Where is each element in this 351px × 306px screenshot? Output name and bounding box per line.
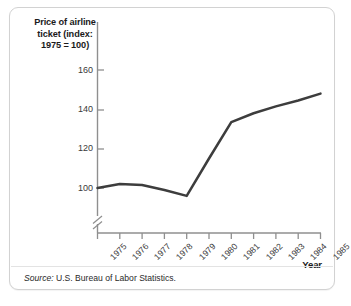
figure-card: Price of airlineticket (index:1975 = 100… <box>9 7 335 290</box>
y-axis-tick-label: 160 <box>67 66 93 75</box>
y-axis-tick-label: 120 <box>67 144 93 153</box>
chart-axes <box>93 22 321 233</box>
y-axis-tick-label: 100 <box>67 184 93 193</box>
source-label: Source: <box>24 273 54 283</box>
source-text: U.S. Bureau of Labor Statistics. <box>54 273 176 283</box>
source-note: Source: U.S. Bureau of Labor Statistics. <box>24 273 176 283</box>
source-divider <box>11 266 333 267</box>
y-axis-ticks <box>98 70 105 188</box>
x-axis-ticks <box>98 233 321 239</box>
line-chart-plot <box>10 8 336 291</box>
y-axis-tick-label: 140 <box>67 105 93 114</box>
data-series-line <box>98 94 321 196</box>
